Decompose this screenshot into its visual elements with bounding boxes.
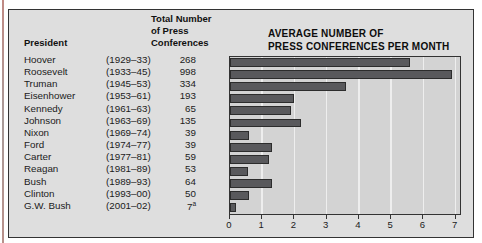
page-edge-line	[2, 0, 4, 243]
table-row-bush: Bush(1989–93)64	[24, 176, 196, 188]
bar-bush	[230, 179, 272, 188]
table-row-truman: Truman(1945–53)334	[24, 78, 196, 90]
column-header-total-press-conferences: Total Number of Press Conferences	[151, 13, 212, 49]
bar-kennedy	[230, 106, 291, 115]
press-conference-count: 334	[180, 78, 196, 89]
president-term: (1963–69)	[106, 115, 151, 126]
press-conference-count: 268	[180, 54, 196, 65]
x-tick-label-2: 2	[283, 219, 303, 230]
x-tick-label-1: 1	[251, 219, 271, 230]
textbook-figure-page: Total Number of Press Conferences Presid…	[0, 0, 482, 243]
bar-chart-plot-area	[229, 56, 461, 215]
president-term: (1993–00)	[106, 188, 151, 199]
table-row-hoover: Hoover(1929–33)268	[24, 54, 196, 66]
president-term: (1953–61)	[106, 90, 151, 101]
table-row-eisenhower: Eisenhower(1953–61)193	[24, 90, 196, 102]
president-name: Reagan	[24, 163, 58, 174]
press-conference-count: 7a	[187, 200, 196, 212]
bar-ford	[230, 143, 272, 152]
chart-title: AVERAGE NUMBER OF PRESS CONFERENCES PER …	[268, 27, 450, 53]
gridline-2	[294, 57, 296, 214]
table-row-kennedy: Kennedy(1961–63)65	[24, 103, 196, 115]
president-term: (1945–53)	[106, 78, 151, 89]
table-row-clinton: Clinton(1993–00)50	[24, 188, 196, 200]
bar-hoover	[230, 58, 410, 67]
president-term: (1974–77)	[106, 139, 151, 150]
x-tick-label-6: 6	[412, 219, 432, 230]
president-name: Nixon	[24, 127, 49, 138]
column-header-line: Total Number	[151, 13, 212, 25]
president-name: Johnson	[24, 115, 61, 126]
bar-g-w-bush	[230, 203, 236, 212]
president-term: (1989–93)	[106, 176, 151, 187]
bar-johnson	[230, 119, 301, 128]
gridline-7	[455, 57, 457, 214]
president-name: G.W. Bush	[24, 200, 71, 211]
press-conference-figure-panel: Total Number of Press Conferences Presid…	[8, 9, 474, 238]
press-conference-count: 53	[185, 163, 196, 174]
gridline-5	[390, 57, 392, 214]
bar-clinton	[230, 191, 249, 200]
president-name: Eisenhower	[24, 90, 75, 101]
bar-eisenhower	[230, 94, 294, 103]
table-row-carter: Carter(1977–81)59	[24, 151, 196, 163]
chart-title-line: AVERAGE NUMBER OF	[268, 27, 450, 40]
president-term: (1961–63)	[106, 103, 151, 114]
press-conference-count: 39	[185, 139, 196, 150]
press-conference-count: 65	[185, 103, 196, 114]
president-name: Bush	[24, 176, 46, 187]
gridline-4	[358, 57, 360, 214]
president-term: (1977–81)	[106, 151, 151, 162]
press-conference-count: 998	[180, 66, 196, 77]
table-row-roosevelt: Roosevelt(1933–45)998	[24, 66, 196, 78]
president-term: (1933–45)	[106, 66, 151, 77]
president-name: Kennedy	[24, 103, 63, 114]
x-tick-label-7: 7	[445, 219, 465, 230]
footnote-marker: a	[192, 200, 196, 207]
president-name: Truman	[24, 78, 57, 89]
bar-truman	[230, 82, 346, 91]
president-term: (1981–89)	[106, 163, 151, 174]
president-name: Clinton	[24, 188, 55, 199]
x-tick-label-5: 5	[380, 219, 400, 230]
column-header-line: of Press	[151, 25, 212, 37]
president-name: Hoover	[24, 54, 56, 65]
press-conference-count: 59	[185, 151, 196, 162]
table-row-ford: Ford(1974–77)39	[24, 139, 196, 151]
president-term: (1969–74)	[106, 127, 151, 138]
bar-reagan	[230, 167, 248, 176]
press-conference-count: 64	[185, 176, 196, 187]
president-term: (2001–02)	[106, 200, 151, 211]
president-table: Hoover(1929–33)268Roosevelt(1933–45)998T…	[24, 54, 196, 212]
table-row-reagan: Reagan(1981–89)53	[24, 163, 196, 175]
x-tick-label-0: 0	[219, 219, 239, 230]
president-name: Roosevelt	[24, 66, 68, 77]
gridline-6	[423, 57, 425, 214]
press-conference-count: 39	[185, 127, 196, 138]
president-name: Ford	[24, 139, 44, 150]
gridline-1	[261, 57, 263, 214]
table-row-johnson: Johnson(1963–69)135	[24, 115, 196, 127]
bar-carter	[230, 155, 269, 164]
bar-roosevelt	[230, 70, 452, 79]
press-conference-count: 135	[180, 115, 196, 126]
table-row-g-w-bush: G.W. Bush(2001–02)7a	[24, 200, 196, 212]
gridline-3	[326, 57, 328, 214]
bar-nixon	[230, 131, 249, 140]
press-conference-count: 50	[185, 188, 196, 199]
column-header-president: President	[24, 37, 67, 48]
x-tick-label-4: 4	[348, 219, 368, 230]
table-row-nixon: Nixon(1969–74)39	[24, 127, 196, 139]
president-name: Carter	[24, 151, 51, 162]
president-term: (1929–33)	[106, 54, 151, 65]
chart-title-line: PRESS CONFERENCES PER MONTH	[268, 40, 450, 53]
press-conference-count: 193	[180, 90, 196, 101]
column-header-line: Conferences	[151, 37, 212, 49]
x-tick-label-3: 3	[316, 219, 336, 230]
